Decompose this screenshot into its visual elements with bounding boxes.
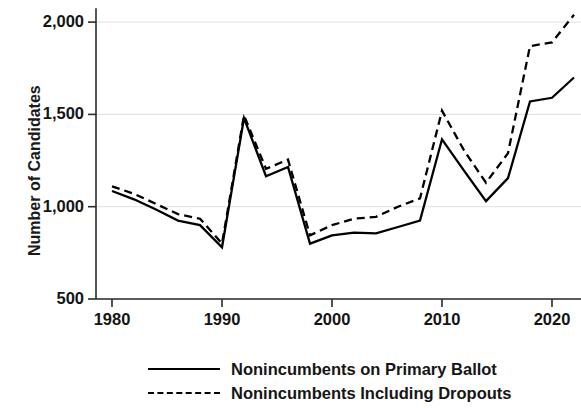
legend-swatch-dashed-line <box>145 386 223 400</box>
plot-area <box>0 0 581 408</box>
x-tick-label-2010: 2010 <box>412 310 472 329</box>
x-tick-label-1990: 1990 <box>192 310 252 329</box>
legend-label-including-dropouts: Nonincumbents Including Dropouts <box>231 384 511 403</box>
legend-item-dashed: Nonincumbents Including Dropouts <box>145 381 565 405</box>
x-tick-label-1980: 1980 <box>82 310 142 329</box>
legend-item-solid: Nonincumbents on Primary Ballot <box>145 357 565 381</box>
y-tick-label-500: 500 <box>56 289 84 308</box>
y-tick-label-1500: 1,500 <box>43 104 84 123</box>
legend-label-primary-ballot: Nonincumbents on Primary Ballot <box>231 360 497 379</box>
y-tick-label-1000: 1,000 <box>43 197 84 216</box>
x-tick-label-2000: 2000 <box>302 310 362 329</box>
chart-figure: Number of Candidates 5001,0001,5002,000 … <box>0 0 581 408</box>
x-tick-label-2020: 2020 <box>522 310 581 329</box>
chart-legend: Nonincumbents on Primary Ballot Nonincum… <box>145 357 565 405</box>
y-tick-label-2000: 2,000 <box>43 12 84 31</box>
legend-swatch-solid-line <box>145 362 223 376</box>
